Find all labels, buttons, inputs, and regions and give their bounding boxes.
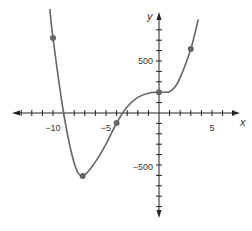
data-point-marker	[50, 35, 56, 41]
y-axis-down-arrow-icon	[157, 210, 162, 218]
x-tick-label-neg10: −10	[45, 123, 60, 133]
function-graph: −10 −5 5 500 −500 x y	[0, 0, 252, 231]
function-curve	[50, 9, 198, 176]
x-tick-label-5: 5	[209, 123, 214, 133]
x-axis-label: x	[239, 116, 246, 128]
y-axis-label: y	[146, 10, 154, 22]
y-axis	[156, 12, 162, 218]
data-point-marker	[80, 173, 86, 179]
data-point-marker	[188, 46, 194, 52]
data-point-marker	[156, 89, 162, 95]
x-axis-left-arrow-icon	[12, 111, 20, 116]
y-axis-up-arrow-icon	[157, 12, 162, 20]
x-axis	[12, 110, 240, 116]
y-tick-label-neg500: −500	[133, 162, 153, 172]
marked-points	[50, 35, 194, 179]
data-point-marker	[114, 120, 120, 126]
y-tick-label-500: 500	[138, 56, 153, 66]
x-tick-label-neg5: −5	[101, 123, 111, 133]
